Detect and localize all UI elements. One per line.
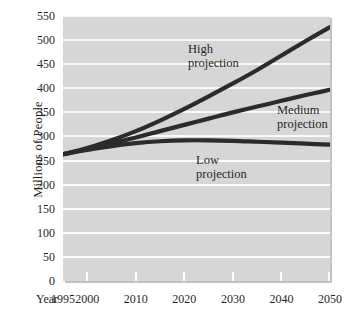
series-label-low-line1: Low: [196, 153, 219, 167]
y-axis-tick-label: 350: [1, 106, 55, 118]
series-label-high-line2: projection: [188, 56, 239, 70]
y-axis-tick-label: 450: [1, 58, 55, 70]
chart-figure: Millions of People 550500450400350300250…: [0, 0, 345, 326]
x-axis-tick-label: 1995: [51, 292, 75, 306]
y-axis-tick-label: 250: [1, 155, 55, 167]
x-axis-tick-label: 2010: [124, 292, 148, 306]
series-label-high-line1: High: [188, 42, 213, 56]
series-label-low: Low projection: [196, 153, 247, 181]
y-axis-tick-label: 400: [1, 82, 55, 94]
y-axis-tick-label: 300: [1, 130, 55, 142]
x-axis-tick-label: 2050: [318, 292, 342, 306]
y-axis-tick-label: 150: [1, 203, 55, 215]
y-axis-tick-labels: 550500450400350300250200150100500: [0, 0, 60, 326]
x-axis-tick-label: 2000: [75, 292, 99, 306]
x-axis-tick-label: 2030: [221, 292, 245, 306]
y-axis-tick-label: 500: [1, 34, 55, 46]
x-axis-tick-label: 2040: [269, 292, 293, 306]
series-label-low-line2: projection: [196, 167, 247, 181]
series-label-medium: Medium projection: [277, 103, 328, 131]
y-axis-tick-label: 550: [1, 10, 55, 22]
x-axis-tick-label: 2020: [172, 292, 196, 306]
x-axis-tick-labels: Year 1995200020102020203020402050: [0, 292, 345, 314]
series-label-medium-line2: projection: [277, 117, 328, 131]
y-axis-tick-label: 200: [1, 179, 55, 191]
y-axis-tick-label: 100: [1, 227, 55, 239]
y-axis-tick-label: 0: [1, 275, 55, 287]
series-label-medium-line1: Medium: [277, 103, 319, 117]
series-label-high: High projection: [188, 42, 239, 70]
y-axis-tick-label: 50: [1, 251, 55, 263]
